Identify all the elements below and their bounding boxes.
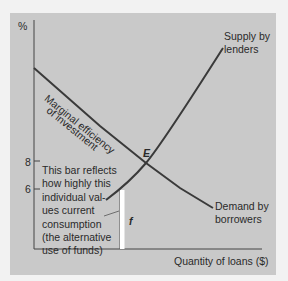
note-line: use of funds) [42,244,122,257]
note-line: consumption [42,218,122,231]
note-line: (the alternative [42,231,122,244]
annotation-note: This bar reflects how highly this indivi… [42,164,122,258]
supply-label-1: Supply by [224,30,270,42]
note-line: ues current [42,204,122,217]
note-line: This bar reflects [42,164,122,177]
demand-label-2: borrowers [215,213,262,225]
demand-label-1: Demand by [215,200,269,212]
y-axis-label: % [18,20,27,32]
supply-label-2: lenders [224,43,258,55]
equilibrium-label: E [143,147,150,159]
note-line: how highly this [42,177,122,190]
tick-label-8: 8 [25,156,31,168]
note-line: individual val- [42,191,122,204]
tick-label-6: 6 [25,183,31,195]
bar-label: f [129,215,133,227]
x-axis-label: Quantity of loans ($) [174,255,269,267]
